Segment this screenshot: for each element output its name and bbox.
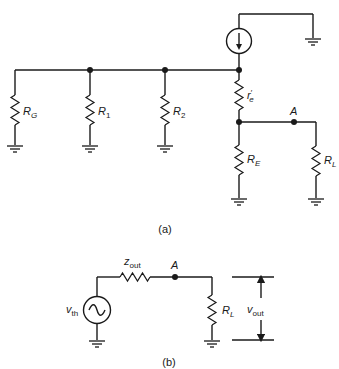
resistor-rl: RL bbox=[308, 122, 336, 205]
svg-text:RG: RG bbox=[23, 105, 37, 120]
resistor-r2: R2 bbox=[157, 70, 186, 152]
resistor-re: RE bbox=[231, 122, 261, 205]
node-a-dot bbox=[291, 119, 297, 125]
svg-text:RE: RE bbox=[247, 153, 261, 168]
diagram-a: RG R1 R2 r′e A bbox=[7, 14, 336, 235]
diagram-b: vth zout A RL vout (b) bbox=[66, 255, 274, 368]
caption-b: (b) bbox=[162, 356, 175, 368]
ground-icon bbox=[89, 341, 105, 347]
ground-icon bbox=[231, 199, 247, 205]
node-a-label: A bbox=[289, 105, 297, 117]
resistor-rl: RL bbox=[204, 277, 234, 347]
vout-indicator: vout bbox=[232, 277, 274, 340]
node-a-dot bbox=[172, 274, 178, 280]
svg-text:vth: vth bbox=[66, 303, 78, 318]
svg-text:R2: R2 bbox=[173, 105, 186, 120]
ground-icon bbox=[7, 146, 23, 152]
impedance-zout: zout bbox=[120, 255, 150, 281]
ground-icon bbox=[82, 146, 98, 152]
svg-text:RL: RL bbox=[222, 304, 234, 319]
sine-icon bbox=[89, 305, 105, 316]
resistor-r1: R1 bbox=[82, 70, 111, 152]
svg-text:R1: R1 bbox=[98, 105, 111, 120]
svg-text:RL: RL bbox=[324, 154, 336, 169]
arrow-down-icon bbox=[236, 44, 242, 50]
svg-text:vout: vout bbox=[247, 303, 264, 318]
svg-text:r′e: r′e bbox=[247, 88, 254, 104]
node-a-label: A bbox=[170, 259, 178, 271]
resistor-re-prime: r′e bbox=[235, 70, 254, 122]
ground-icon bbox=[204, 341, 220, 347]
resistor-rg: RG bbox=[7, 70, 37, 152]
svg-text:zout: zout bbox=[123, 255, 141, 270]
ground-icon bbox=[157, 146, 173, 152]
ground-icon bbox=[305, 39, 321, 45]
caption-a: (a) bbox=[158, 223, 171, 235]
ac-voltage-source: vth bbox=[66, 277, 111, 347]
current-source bbox=[227, 14, 322, 70]
ground-icon bbox=[308, 199, 324, 205]
